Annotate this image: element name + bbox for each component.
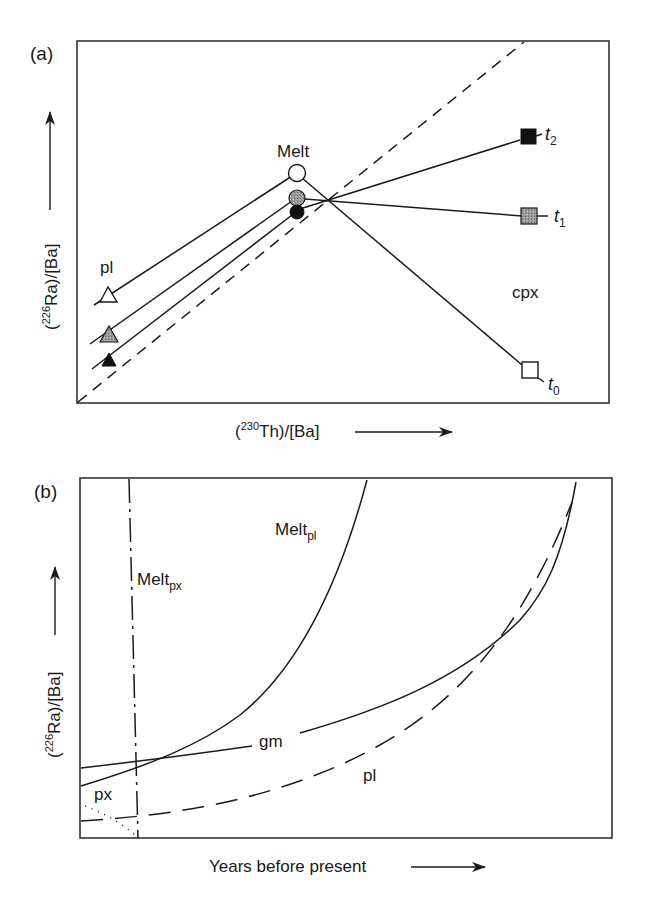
isochron-t2-right — [303, 140, 520, 208]
figure: (a) (226Ra)/[Ba] (230Th)/[Ba] Mel — [0, 0, 646, 905]
isochron-t0-left — [94, 176, 292, 305]
melt-pl-label: Meltpl — [275, 520, 316, 543]
svg-text:(226Ra)/[Ba]: (226Ra)/[Ba] — [40, 244, 61, 330]
gm-label: gm — [259, 732, 283, 751]
melt-t0-marker — [289, 165, 306, 182]
cpx-t1-marker — [521, 208, 537, 224]
panel-b: (b) (226Ra)/[Ba] Years before present Me… — [34, 478, 612, 876]
melt-label: Melt — [277, 142, 309, 161]
melt-px-curve — [129, 479, 138, 838]
isochron-t0-right — [302, 178, 522, 365]
panel-b-tag: (b) — [34, 481, 57, 502]
t2-label: t2 — [545, 124, 557, 148]
equiline — [78, 42, 524, 402]
t0-label: t0 — [548, 374, 560, 398]
pl-curve — [81, 502, 572, 821]
panel-a-tag: (a) — [30, 43, 53, 64]
panel-a-y-axis-label: (226Ra)/[Ba] — [40, 244, 61, 330]
pl-label-b: pl — [363, 766, 376, 785]
melt-t1-marker — [289, 190, 305, 206]
melt-t2-marker — [290, 205, 304, 219]
pl-label: pl — [100, 258, 113, 277]
melt-px-label: Meltpx — [137, 570, 182, 593]
panel-a-x-axis-label: (230Th)/[Ba] — [235, 420, 320, 441]
svg-text:(226Ra)/[Ba]: (226Ra)/[Ba] — [43, 672, 64, 758]
pl-t0-marker — [100, 287, 117, 302]
cpx-label: cpx — [512, 283, 539, 302]
isochron-t2-left — [92, 215, 292, 369]
pl-t1-marker — [100, 326, 118, 342]
panel-a: (a) (226Ra)/[Ba] (230Th)/[Ba] Mel — [30, 41, 609, 441]
px-label: px — [94, 785, 112, 804]
panel-b-frame — [80, 478, 612, 838]
t1-label: t1 — [554, 206, 566, 230]
isochron-t1-left — [90, 201, 292, 344]
cpx-t2-marker — [521, 129, 536, 144]
gm-curve-right — [300, 482, 576, 733]
panel-b-y-axis-label: (226Ra)/[Ba] — [43, 672, 64, 758]
cpx-t0-marker — [522, 362, 538, 378]
t2-lead — [536, 134, 542, 136]
melt-pl-curve — [81, 480, 367, 786]
panel-b-x-axis-label: Years before present — [209, 857, 366, 876]
gm-curve-left — [81, 746, 252, 768]
